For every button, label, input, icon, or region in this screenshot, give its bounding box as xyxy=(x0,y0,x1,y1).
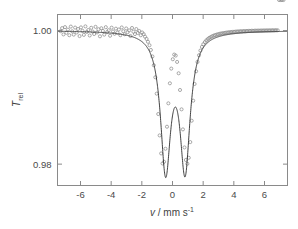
x-axis-title-separator: / xyxy=(155,207,163,218)
svg-text:v / mm s-1: v / mm s-1 xyxy=(150,206,194,218)
x-axis-title-exponent: -1 xyxy=(188,206,194,213)
x-tick-label: 4 xyxy=(231,189,236,200)
x-axis-title-unit: mm s xyxy=(163,207,187,218)
y-tick-label: 1.00 xyxy=(33,25,52,36)
x-tick-label: -4 xyxy=(107,189,115,200)
x-axis-title: v / mm s-1 xyxy=(150,206,194,218)
moessbauer-spectrum-figure: -6-4-20246 1.000.98 v / mm s-1 Trel xyxy=(0,0,298,229)
x-tick-label: -6 xyxy=(76,189,84,200)
x-tick-label: 6 xyxy=(262,189,267,200)
plot-svg: -6-4-20246 1.000.98 v / mm s-1 Trel xyxy=(0,0,298,229)
y-axis-title-subscript: rel xyxy=(17,93,24,101)
x-tick-label: 2 xyxy=(201,189,206,200)
y-tick-label: 0.98 xyxy=(33,159,52,170)
x-tick-label: 0 xyxy=(170,189,175,200)
x-tick-label: -2 xyxy=(138,189,146,200)
